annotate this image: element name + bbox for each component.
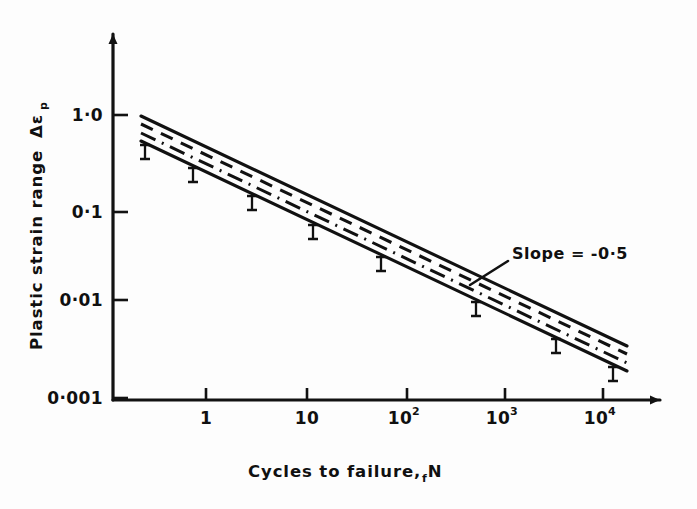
x-tick-label-2: 10 (388, 408, 412, 428)
y-axis-tick-labels: 1·0 0·1 0·01 0·001 (47, 105, 103, 408)
y-tick-label-2: 0·01 (59, 290, 103, 310)
y-axis-arrowhead (109, 34, 118, 44)
data-point-marker (471, 302, 481, 316)
y-axis-ticks (113, 115, 128, 398)
data-point-marker (247, 196, 257, 210)
data-point-marker (608, 367, 618, 381)
data-point-marker (551, 339, 561, 353)
chart-canvas: 1·0 0·1 0·01 0·001 1 10 10 2 10 3 (0, 0, 697, 509)
data-point-marker (308, 225, 318, 239)
y-axis-title-text: Plastic strain range (27, 150, 46, 350)
x-axis-arrowhead (650, 396, 660, 405)
x-tick-label-3: 10 (486, 408, 510, 428)
y-axis-title-symbol: Δε (27, 114, 46, 138)
x-tick-label-3-group: 10 3 (486, 405, 518, 428)
data-point-marker (376, 257, 386, 271)
x-axis-title: Cycles to failure, N f (248, 462, 443, 485)
series-mean-dashed (141, 124, 627, 354)
x-tick-label-4-group: 10 4 (584, 405, 616, 428)
x-axis-tick-labels: 1 10 10 2 10 3 10 4 (200, 405, 616, 428)
x-axis-ticks (206, 388, 603, 400)
x-tick-label-4-exponent: 4 (608, 405, 616, 418)
slope-annotation-label: Slope = -0·5 (512, 244, 628, 263)
figure-page: 1·0 0·1 0·01 0·001 1 10 10 2 10 3 (0, 0, 697, 509)
x-axis-title-text: Cycles to failure, N (248, 462, 443, 481)
x-tick-label-1: 10 (295, 408, 319, 428)
y-tick-label-1: 0·1 (72, 202, 103, 222)
x-tick-label-2-group: 10 2 (388, 405, 420, 428)
x-tick-label-3-exponent: 3 (510, 405, 518, 418)
x-tick-label-0: 1 (200, 408, 212, 428)
y-axis-title: Plastic strain range Δε p (27, 102, 50, 350)
data-point-marker (140, 145, 150, 159)
y-tick-label-3: 0·001 (47, 388, 103, 408)
data-point-markers (140, 145, 618, 381)
slope-annotation: Slope = -0·5 (470, 244, 628, 285)
data-point-marker (188, 168, 198, 182)
x-tick-label-2-exponent: 2 (412, 405, 420, 418)
series-upper-bound-solid (141, 116, 627, 346)
y-tick-label-0: 1·0 (72, 105, 103, 125)
x-tick-label-4: 10 (584, 408, 608, 428)
x-axis-title-subscript: f (422, 472, 427, 485)
y-axis-title-subscript: p (37, 102, 50, 110)
